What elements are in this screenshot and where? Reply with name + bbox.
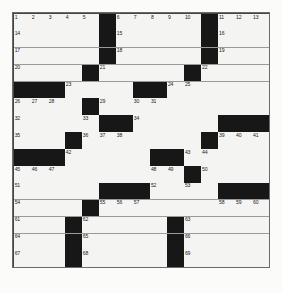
grid-cell[interactable] xyxy=(133,149,150,166)
grid-cell[interactable] xyxy=(252,82,269,99)
grid-cell[interactable] xyxy=(82,48,99,65)
grid-cell[interactable] xyxy=(184,115,201,132)
grid-cell[interactable] xyxy=(48,65,65,82)
grid-cell[interactable]: 15 xyxy=(116,31,133,48)
grid-cell[interactable] xyxy=(48,183,65,200)
grid-cell[interactable]: 17 xyxy=(14,48,31,65)
grid-cell[interactable]: 61 xyxy=(14,217,31,234)
grid-cell[interactable] xyxy=(252,31,269,48)
grid-cell[interactable] xyxy=(201,115,218,132)
grid-cell[interactable] xyxy=(31,200,48,217)
grid-cell[interactable]: 55 xyxy=(99,200,116,217)
grid-cell[interactable] xyxy=(82,166,99,183)
grid-cell[interactable]: 43 xyxy=(184,149,201,166)
grid-cell[interactable] xyxy=(201,217,218,234)
grid-cell[interactable] xyxy=(31,234,48,251)
grid-cell[interactable]: 14 xyxy=(14,31,31,48)
grid-cell[interactable] xyxy=(252,98,269,115)
grid-cell[interactable] xyxy=(252,65,269,82)
grid-cell[interactable] xyxy=(31,183,48,200)
grid-cell[interactable] xyxy=(65,65,82,82)
grid-cell[interactable] xyxy=(252,217,269,234)
grid-cell[interactable]: 20 xyxy=(14,65,31,82)
grid-cell[interactable] xyxy=(150,250,167,267)
grid-cell[interactable]: 7 xyxy=(133,14,150,31)
grid-cell[interactable] xyxy=(48,250,65,267)
grid-cell[interactable] xyxy=(218,98,235,115)
grid-cell[interactable] xyxy=(65,115,82,132)
grid-cell[interactable] xyxy=(99,217,116,234)
grid-cell[interactable]: 30 xyxy=(133,98,150,115)
grid-cell[interactable] xyxy=(150,200,167,217)
grid-cell[interactable]: 16 xyxy=(218,31,235,48)
grid-cell[interactable]: 6 xyxy=(116,14,133,31)
grid-cell[interactable]: 58 xyxy=(218,200,235,217)
grid-cell[interactable]: 5 xyxy=(82,14,99,31)
grid-cell[interactable] xyxy=(82,183,99,200)
grid-cell[interactable]: 44 xyxy=(201,149,218,166)
grid-cell[interactable] xyxy=(82,31,99,48)
crossword-grid[interactable]: 1234567891011121314151617181920212223242… xyxy=(13,13,269,267)
grid-cell[interactable]: 27 xyxy=(31,98,48,115)
grid-cell[interactable]: 57 xyxy=(133,200,150,217)
grid-cell[interactable]: 12 xyxy=(235,14,252,31)
grid-cell[interactable]: 18 xyxy=(116,48,133,65)
grid-cell[interactable]: 34 xyxy=(133,115,150,132)
grid-cell[interactable] xyxy=(218,234,235,251)
grid-cell[interactable]: 46 xyxy=(31,166,48,183)
grid-cell[interactable] xyxy=(218,65,235,82)
grid-cell[interactable] xyxy=(31,250,48,267)
grid-cell[interactable] xyxy=(252,149,269,166)
grid-cell[interactable]: 28 xyxy=(48,98,65,115)
grid-cell[interactable]: 66 xyxy=(184,234,201,251)
grid-cell[interactable] xyxy=(201,200,218,217)
grid-cell[interactable] xyxy=(184,200,201,217)
grid-cell[interactable]: 25 xyxy=(184,82,201,99)
grid-cell[interactable] xyxy=(167,31,184,48)
grid-cell[interactable]: 51 xyxy=(14,183,31,200)
grid-cell[interactable]: 29 xyxy=(99,98,116,115)
grid-cell[interactable] xyxy=(133,65,150,82)
grid-cell[interactable]: 49 xyxy=(167,166,184,183)
grid-cell[interactable] xyxy=(65,31,82,48)
grid-cell[interactable] xyxy=(116,82,133,99)
grid-cell[interactable] xyxy=(235,82,252,99)
grid-cell[interactable] xyxy=(218,217,235,234)
grid-cell[interactable]: 69 xyxy=(184,250,201,267)
grid-cell[interactable] xyxy=(252,48,269,65)
grid-cell[interactable] xyxy=(82,149,99,166)
grid-cell[interactable] xyxy=(201,183,218,200)
grid-cell[interactable]: 53 xyxy=(184,183,201,200)
grid-cell[interactable] xyxy=(167,98,184,115)
grid-cell[interactable]: 45 xyxy=(14,166,31,183)
grid-cell[interactable]: 32 xyxy=(14,115,31,132)
grid-cell[interactable]: 3 xyxy=(48,14,65,31)
grid-cell[interactable]: 2 xyxy=(31,14,48,31)
grid-cell[interactable] xyxy=(116,98,133,115)
grid-cell[interactable] xyxy=(184,48,201,65)
grid-cell[interactable] xyxy=(65,183,82,200)
grid-cell[interactable] xyxy=(167,183,184,200)
grid-cell[interactable] xyxy=(133,48,150,65)
grid-cell[interactable] xyxy=(150,217,167,234)
grid-cell[interactable]: 47 xyxy=(48,166,65,183)
grid-cell[interactable] xyxy=(150,132,167,149)
grid-cell[interactable] xyxy=(201,250,218,267)
grid-cell[interactable] xyxy=(99,166,116,183)
grid-cell[interactable] xyxy=(65,98,82,115)
grid-cell[interactable]: 64 xyxy=(14,234,31,251)
grid-cell[interactable] xyxy=(133,250,150,267)
grid-cell[interactable]: 42 xyxy=(65,149,82,166)
grid-cell[interactable]: 52 xyxy=(150,183,167,200)
grid-cell[interactable] xyxy=(133,217,150,234)
grid-cell[interactable] xyxy=(99,82,116,99)
grid-cell[interactable] xyxy=(65,166,82,183)
grid-cell[interactable]: 39 xyxy=(218,132,235,149)
grid-cell[interactable] xyxy=(252,166,269,183)
grid-cell[interactable] xyxy=(235,149,252,166)
grid-cell[interactable] xyxy=(116,149,133,166)
grid-cell[interactable] xyxy=(167,115,184,132)
grid-cell[interactable] xyxy=(218,166,235,183)
grid-cell[interactable] xyxy=(201,82,218,99)
grid-cell[interactable] xyxy=(235,65,252,82)
